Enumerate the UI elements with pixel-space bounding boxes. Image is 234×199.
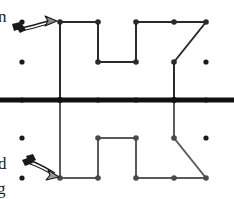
shape-vertex: [95, 19, 101, 25]
shape-vertex: [203, 175, 209, 181]
shape-vertex: [133, 175, 139, 181]
diagram-canvas: [0, 0, 234, 199]
shape-vertex: [133, 59, 139, 65]
shape-vertex: [95, 59, 101, 65]
shape-vertex: [133, 135, 139, 141]
image-polyline: [60, 100, 206, 178]
mirror-line-group: [0, 97, 234, 103]
shape-vertex: [57, 19, 63, 25]
arrow-to-pre-image: [12, 16, 57, 33]
grid-dot: [203, 59, 208, 64]
shape-vertex: [171, 135, 177, 141]
shape-vertex: [133, 19, 139, 25]
shape-vertex: [95, 175, 101, 181]
grid-dot-on-axis: [95, 97, 100, 102]
label-fragment-d: d: [0, 155, 7, 172]
geometry-figure: n d g: [0, 0, 234, 199]
arrow-to-image: [22, 154, 59, 180]
grid-dot: [19, 59, 24, 64]
shape-vertex: [171, 59, 177, 65]
shape-vertex: [203, 19, 209, 25]
grid-dot: [19, 175, 24, 180]
grid-dot-on-axis: [57, 97, 63, 103]
shape-vertex: [95, 135, 101, 141]
shape-vertex: [171, 175, 177, 181]
grid-dot: [19, 135, 24, 140]
image-shape: [57, 100, 209, 181]
pre-image-shape: [57, 19, 209, 100]
grid-dot-on-axis: [133, 97, 138, 102]
grid-dot-on-axis: [19, 97, 24, 102]
label-fragment-g: g: [0, 180, 6, 197]
grid-dot-on-axis: [203, 97, 208, 102]
grid-dot-on-axis: [171, 97, 177, 103]
shape-vertex: [171, 19, 177, 25]
label-fragment-n: n: [0, 8, 7, 25]
pre-image-polyline: [60, 22, 206, 100]
grid-dot: [203, 135, 208, 140]
